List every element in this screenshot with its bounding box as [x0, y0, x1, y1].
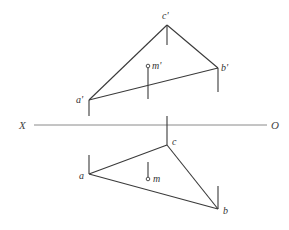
top-view-projectors: [89, 116, 218, 209]
label-b-prime: b': [221, 62, 229, 73]
label-a: a: [79, 170, 84, 181]
label-c-prime: c': [162, 10, 169, 21]
axis-label-x: X: [18, 119, 27, 131]
point-m-prime-marker: [146, 64, 150, 68]
edge-a-c: [89, 145, 167, 174]
edge-c-prime-b-prime: [167, 25, 218, 68]
label-m: m: [153, 173, 160, 184]
axis-label-o: O: [271, 119, 279, 131]
label-a-prime: a': [76, 94, 84, 105]
label-c: c: [172, 136, 177, 147]
projection-diagram: X O c' a' b' m': [0, 0, 289, 230]
point-m-marker: [146, 177, 150, 181]
edge-c-b: [167, 145, 218, 209]
diagram-canvas: X O c' a' b' m': [0, 0, 289, 230]
label-b: b: [223, 205, 228, 216]
label-m-prime: m': [152, 60, 162, 71]
edge-a-prime-b-prime: [89, 68, 218, 100]
